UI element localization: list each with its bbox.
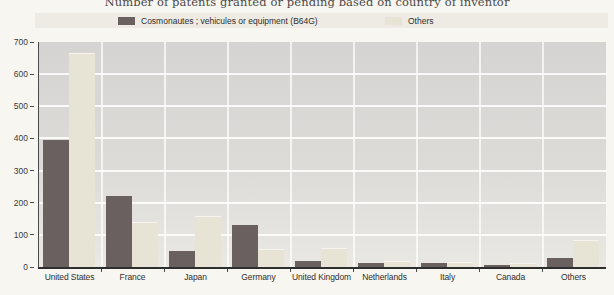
y-tick-label-0: 0 (23, 262, 28, 272)
bar-others-others (573, 240, 599, 267)
x-axis-label-others: Others (542, 272, 605, 282)
bar-others-italy (447, 262, 473, 267)
plot-area (38, 42, 606, 269)
bar-group-canada (480, 42, 543, 267)
y-tick-label-400: 400 (14, 133, 28, 143)
x-axis-label-italy: Italy (416, 272, 479, 282)
bar-b64g-italy (421, 263, 447, 267)
y-tick-mark (30, 74, 34, 75)
bar-others-france (132, 222, 158, 267)
bar-others-germany (258, 249, 284, 267)
legend-item-b64g: Cosmonautes ; vehicules or equipment (B6… (118, 16, 318, 26)
bar-group-netherlands (354, 42, 417, 267)
bar-group-japan (165, 42, 228, 267)
bar-b64g-others (547, 258, 573, 267)
chart-title: Number of patents granted or pending bas… (0, 0, 614, 9)
x-axis-label-united-states: United States (38, 272, 101, 282)
x-axis-label-netherlands: Netherlands (353, 272, 416, 282)
bar-group-others (543, 42, 606, 267)
legend-swatch-others-icon (385, 17, 402, 25)
legend-label-others: Others (408, 16, 434, 26)
y-tick-mark (30, 170, 34, 171)
y-axis-labels: 0100200300400500600700 (0, 42, 34, 267)
x-axis-label-france: France (101, 272, 164, 282)
x-axis-label-united-kingdom: United Kingdom (290, 272, 353, 282)
y-tick-label-700: 700 (14, 37, 28, 47)
x-axis-label-japan: Japan (164, 272, 227, 282)
bar-b64g-united-states (43, 140, 69, 267)
bar-group-italy (417, 42, 480, 267)
y-tick-label-500: 500 (14, 101, 28, 111)
bar-others-netherlands (384, 261, 410, 267)
bar-group-germany (228, 42, 291, 267)
y-tick-label-600: 600 (14, 69, 28, 79)
bar-group-united-kingdom (291, 42, 354, 267)
legend-label-b64g: Cosmonautes ; vehicules or equipment (B6… (141, 16, 318, 26)
bar-others-japan (195, 216, 221, 267)
bar-b64g-canada (484, 265, 510, 267)
y-tick-mark (30, 106, 34, 107)
bar-group-united-states (39, 42, 102, 267)
y-tick-mark (30, 42, 34, 43)
bar-others-canada (510, 263, 536, 267)
y-tick-label-100: 100 (14, 230, 28, 240)
legend-swatch-b64g-icon (118, 17, 135, 25)
x-axis-label-canada: Canada (479, 272, 542, 282)
bar-others-united-states (69, 53, 95, 267)
y-tick-mark (30, 202, 34, 203)
bar-b64g-japan (169, 251, 195, 267)
bar-b64g-france (106, 196, 132, 267)
y-tick-mark (30, 234, 34, 235)
bar-others-united-kingdom (321, 248, 347, 267)
bar-b64g-germany (232, 225, 258, 267)
y-tick-label-300: 300 (14, 166, 28, 176)
bar-b64g-netherlands (358, 263, 384, 267)
bar-group-france (102, 42, 165, 267)
y-tick-mark (30, 267, 34, 268)
y-tick-label-200: 200 (14, 198, 28, 208)
x-axis-labels: United StatesFranceJapanGermanyUnited Ki… (38, 272, 605, 282)
x-axis-label-germany: Germany (227, 272, 290, 282)
legend-item-others: Others (385, 16, 434, 26)
bar-b64g-united-kingdom (295, 261, 321, 267)
bar-series (39, 42, 606, 267)
y-tick-mark (30, 138, 34, 139)
